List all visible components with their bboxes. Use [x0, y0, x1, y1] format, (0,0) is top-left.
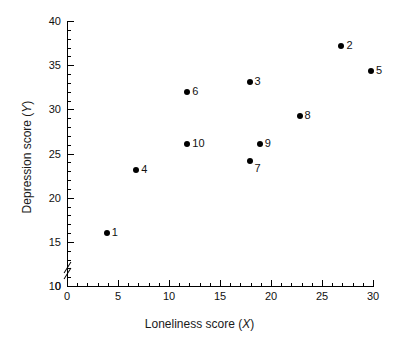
x-tick-minor: [281, 283, 282, 287]
scatter-plot-figure: 10152025303540 051015202530 12345678910 …: [0, 0, 399, 342]
y-tick-major: [67, 65, 74, 66]
y-tick-minor: [67, 207, 71, 208]
y-axis-zero-label: 0: [37, 281, 61, 292]
y-tick-minor: [67, 136, 71, 137]
y-tick-minor: [67, 233, 71, 234]
y-tick-label: 40: [37, 16, 61, 27]
data-point-label: 3: [255, 76, 261, 87]
x-tick-label: 0: [54, 291, 80, 302]
y-tick-minor: [67, 48, 71, 49]
y-tick-minor: [67, 162, 71, 163]
y-tick-major: [67, 286, 74, 287]
y-tick-minor: [67, 260, 71, 261]
y-tick-label: 30: [37, 104, 61, 115]
y-tick-minor: [67, 215, 71, 216]
x-tick-major: [373, 280, 374, 287]
data-point-label: 8: [305, 110, 311, 121]
y-tick-major: [67, 242, 74, 243]
y-tick-minor: [67, 92, 71, 93]
y-axis-title-text: Depression score (: [20, 113, 34, 214]
x-axis-title: Loneliness score (X): [0, 317, 399, 331]
x-tick-minor: [149, 283, 150, 287]
x-tick-minor: [342, 283, 343, 287]
y-tick-minor: [67, 39, 71, 40]
data-point-label: 7: [255, 163, 261, 174]
x-axis-title-variable: X: [242, 317, 250, 331]
y-tick-minor: [67, 171, 71, 172]
x-tick-major: [118, 280, 119, 287]
y-tick-minor: [67, 180, 71, 181]
data-point: [247, 158, 253, 164]
x-tick-minor: [159, 283, 160, 287]
x-tick-major: [220, 280, 221, 287]
x-tick-minor: [179, 283, 180, 287]
x-tick-minor: [251, 283, 252, 287]
x-tick-minor: [291, 283, 292, 287]
x-tick-major: [271, 280, 272, 287]
y-tick-minor: [67, 224, 71, 225]
x-tick-minor: [128, 283, 129, 287]
y-tick-minor: [67, 251, 71, 252]
data-point-label: 1: [112, 227, 118, 238]
x-tick-label: 5: [105, 291, 131, 302]
data-point: [257, 141, 263, 147]
data-point-label: 10: [192, 138, 204, 149]
x-tick-minor: [200, 283, 201, 287]
data-point: [184, 141, 190, 147]
x-tick-minor: [363, 283, 364, 287]
x-tick-minor: [332, 283, 333, 287]
y-tick-minor: [67, 145, 71, 146]
y-tick-minor: [67, 118, 71, 119]
y-tick-minor: [67, 268, 71, 269]
y-tick-minor: [67, 101, 71, 102]
data-point: [247, 79, 253, 85]
y-tick-label: 25: [37, 149, 61, 160]
x-tick-minor: [210, 283, 211, 287]
y-tick-minor: [67, 30, 71, 31]
y-tick-label: 35: [37, 60, 61, 71]
data-point-label: 6: [192, 86, 198, 97]
x-tick-major: [322, 280, 323, 287]
x-tick-label: 30: [360, 291, 386, 302]
x-axis-title-tail: ): [250, 317, 254, 331]
data-point-label: 4: [141, 164, 147, 175]
y-tick-minor: [67, 83, 71, 84]
y-tick-minor: [67, 56, 71, 57]
x-axis-title-text: Loneliness score (: [145, 317, 242, 331]
x-tick-label: 10: [156, 291, 182, 302]
data-point: [184, 89, 190, 95]
y-tick-minor: [67, 189, 71, 190]
x-tick-minor: [353, 283, 354, 287]
x-tick-minor: [77, 283, 78, 287]
y-tick-minor: [67, 127, 71, 128]
x-tick-minor: [261, 283, 262, 287]
x-tick-major: [67, 280, 68, 287]
x-tick-minor: [138, 283, 139, 287]
data-point: [368, 68, 374, 74]
y-tick-major: [67, 21, 74, 22]
x-tick-label: 20: [258, 291, 284, 302]
x-tick-minor: [189, 283, 190, 287]
data-point: [104, 230, 110, 236]
y-tick-major: [67, 109, 74, 110]
x-tick-minor: [98, 283, 99, 287]
x-tick-label: 25: [309, 291, 335, 302]
y-axis-title-tail: ): [20, 101, 34, 105]
data-point-label: 5: [376, 65, 382, 76]
x-tick-minor: [302, 283, 303, 287]
y-tick-minor: [67, 277, 71, 278]
y-axis-title-variable: Y: [20, 105, 34, 113]
data-point: [133, 167, 139, 173]
y-tick-label: 15: [37, 237, 61, 248]
data-point: [338, 43, 344, 49]
y-tick-label: 20: [37, 193, 61, 204]
x-tick-minor: [312, 283, 313, 287]
x-tick-minor: [240, 283, 241, 287]
data-point: [297, 113, 303, 119]
y-tick-major: [67, 198, 74, 199]
y-tick-major: [67, 154, 74, 155]
x-tick-minor: [87, 283, 88, 287]
data-point-label: 9: [265, 138, 271, 149]
x-tick-major: [169, 280, 170, 287]
x-tick-label: 15: [207, 291, 233, 302]
